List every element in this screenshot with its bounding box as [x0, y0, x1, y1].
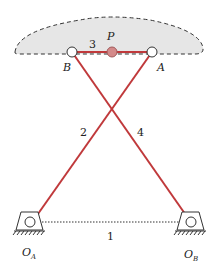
label-link-3: 3: [89, 38, 96, 51]
joint-a: [147, 47, 157, 57]
coupler-point-p: [107, 47, 117, 57]
ground-support-ob: [174, 212, 206, 235]
ground-support-oa: [13, 212, 45, 235]
joint-b: [67, 47, 77, 57]
label-link-4: 4: [137, 126, 144, 139]
link-4: [72, 52, 190, 221]
pivot-oa: [25, 217, 35, 227]
label-p: P: [106, 30, 115, 43]
label-oa: OA: [22, 246, 36, 261]
link-2: [33, 52, 152, 221]
label-link-1: 1: [107, 230, 114, 243]
label-b: B: [62, 61, 71, 74]
label-a: A: [156, 61, 165, 74]
label-link-2: 2: [80, 126, 87, 139]
pivot-ob: [186, 217, 196, 227]
linkage-diagram: P 3 B A 2 4 1 OA OB: [0, 0, 221, 275]
label-ob: OB: [184, 248, 198, 263]
